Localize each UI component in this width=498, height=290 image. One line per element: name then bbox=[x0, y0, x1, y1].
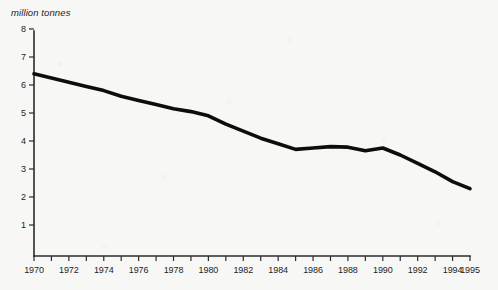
x-axis-tick-label: 1970 bbox=[24, 265, 44, 275]
x-axis-tick-label: 1982 bbox=[233, 265, 253, 275]
y-axis-tick-label: 8 bbox=[21, 24, 26, 34]
x-axis-tick-label: 1980 bbox=[199, 265, 219, 275]
x-axis-tick-label: 1995 bbox=[460, 265, 480, 275]
x-axis: 1970197219741976197819801982198419861988… bbox=[24, 256, 480, 275]
x-axis-tick-label: 1984 bbox=[268, 265, 288, 275]
y-axis: 12345678 bbox=[21, 24, 34, 256]
x-axis-tick-label: 1992 bbox=[408, 265, 428, 275]
y-axis-tick-label: 1 bbox=[21, 220, 26, 230]
line-chart: million tonnes 12345678 1970197219741976… bbox=[0, 0, 498, 290]
data-series-line bbox=[34, 74, 470, 189]
data-series-group bbox=[34, 74, 470, 189]
x-axis-tick-label: 1972 bbox=[59, 265, 79, 275]
y-axis-tick-label: 5 bbox=[21, 108, 26, 118]
y-axis-tick-label: 4 bbox=[21, 136, 26, 146]
x-axis-tick-label: 1990 bbox=[373, 265, 393, 275]
y-axis-tick-label: 3 bbox=[21, 164, 26, 174]
x-axis-tick-label: 1988 bbox=[338, 265, 358, 275]
x-axis-tick-label: 1978 bbox=[164, 265, 184, 275]
x-axis-tick-label: 1976 bbox=[129, 265, 149, 275]
y-axis-tick-label: 7 bbox=[21, 52, 26, 62]
y-axis-tick-label: 6 bbox=[21, 80, 26, 90]
x-axis-tick-label: 1986 bbox=[303, 265, 323, 275]
chart-plot-area: 12345678 1970197219741976197819801982198… bbox=[0, 0, 498, 290]
y-axis-tick-label: 2 bbox=[21, 192, 26, 202]
x-axis-tick-label: 1974 bbox=[94, 265, 114, 275]
